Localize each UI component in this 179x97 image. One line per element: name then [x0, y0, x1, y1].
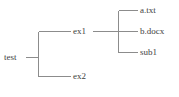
tree-node-ex2: ex2: [73, 72, 86, 81]
directory-tree-diagram: test ex1 ex2 a.txt b.docx sub1: [0, 0, 179, 97]
tree-node-b-docx: b.docx: [140, 27, 164, 36]
tree-node-sub1: sub1: [140, 48, 157, 57]
tree-node-a-txt: a.txt: [140, 6, 156, 15]
tree-node-test: test: [4, 53, 17, 62]
tree-node-ex1: ex1: [73, 27, 86, 36]
